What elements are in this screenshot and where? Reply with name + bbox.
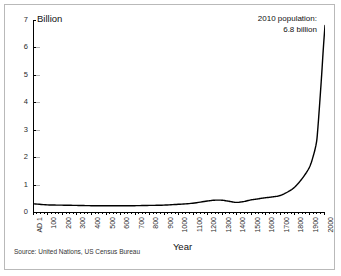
x-tick-mark-major: [222, 212, 223, 215]
x-tick-mark-major: [294, 212, 295, 215]
x-tick-mark-minor: [142, 212, 143, 214]
x-tick-mark-minor: [313, 212, 314, 214]
x-tick-mark-major: [280, 212, 281, 215]
x-tick-mark-minor: [66, 212, 67, 214]
x-tick-mark-minor: [185, 212, 186, 214]
x-tick-mark-minor: [244, 212, 245, 214]
population-growth-chart: Billion 2010 population: 6.8 billion 012…: [0, 0, 341, 276]
x-tick-mark-major: [62, 212, 63, 215]
x-tick-mark-minor: [138, 212, 139, 214]
x-tick-mark-minor: [109, 212, 110, 214]
x-tick-mark-minor: [291, 212, 292, 214]
y-tick-label: 2: [6, 153, 28, 161]
x-tick-mark-minor: [204, 212, 205, 214]
x-tick-mark-minor: [73, 212, 74, 214]
x-tick-mark-minor: [258, 212, 259, 214]
source-note: Source: United Nations, US Census Bureau: [14, 248, 140, 256]
x-tick-mark-major: [76, 212, 77, 215]
x-tick-mark-minor: [131, 212, 132, 214]
x-tick-mark-minor: [302, 212, 303, 214]
x-tick-mark-minor: [255, 212, 256, 214]
x-tick-mark-minor: [116, 212, 117, 214]
x-tick-label: 100: [50, 217, 57, 229]
x-tick-mark-minor: [229, 212, 230, 214]
x-tick-mark-minor: [269, 212, 270, 214]
x-tick-mark-major: [135, 212, 136, 215]
x-tick-mark-minor: [218, 212, 219, 214]
x-tick-mark-minor: [182, 212, 183, 214]
y-tick-label: 7: [6, 16, 28, 24]
x-tick-mark-major: [324, 212, 325, 215]
x-tick-mark-minor: [69, 212, 70, 214]
y-tick-label: 0: [6, 208, 28, 216]
x-tick-mark-minor: [305, 212, 306, 214]
x-tick-mark-minor: [215, 212, 216, 214]
x-tick-mark-minor: [247, 212, 248, 214]
x-tick-mark-minor: [189, 212, 190, 214]
population-line-series: [33, 20, 325, 212]
x-tick-mark-minor: [262, 212, 263, 214]
x-tick-mark-minor: [87, 212, 88, 214]
x-tick-label: 1400: [239, 217, 246, 233]
x-tick-mark-minor: [171, 212, 172, 214]
y-tick-label: 4: [6, 98, 28, 106]
x-tick-mark-minor: [175, 212, 176, 214]
x-tick-label: 700: [138, 217, 145, 229]
x-tick-mark-minor: [51, 212, 52, 214]
x-tick-mark-major: [164, 212, 165, 215]
x-tick-label: 1500: [254, 217, 261, 233]
x-tick-mark-minor: [287, 212, 288, 214]
x-tick-mark-minor: [127, 212, 128, 214]
x-tick-mark-minor: [95, 212, 96, 214]
x-tick-label: 900: [167, 217, 174, 229]
x-tick-mark-major: [149, 212, 150, 215]
x-tick-mark-minor: [196, 212, 197, 214]
x-tick-mark-major: [193, 212, 194, 215]
x-tick-mark-minor: [298, 212, 299, 214]
x-tick-label: 1000: [181, 217, 188, 233]
x-tick-mark-minor: [167, 212, 168, 214]
x-tick-mark-major: [91, 212, 92, 215]
x-tick-mark-major: [265, 212, 266, 215]
x-tick-mark-major: [207, 212, 208, 215]
x-tick-mark-minor: [320, 212, 321, 214]
x-tick-label: 1200: [210, 217, 217, 233]
x-tick-label: 200: [65, 217, 72, 229]
x-tick-mark-major: [236, 212, 237, 215]
x-tick-mark-minor: [40, 212, 41, 214]
plot-area: [33, 20, 325, 212]
x-tick-mark-minor: [84, 212, 85, 214]
x-tick-label: 1600: [268, 217, 275, 233]
x-tick-mark-minor: [113, 212, 114, 214]
x-tick-mark-major: [251, 212, 252, 215]
x-tick-label: 1800: [297, 217, 304, 233]
x-tick-mark-minor: [225, 212, 226, 214]
x-tick-mark-minor: [211, 212, 212, 214]
x-tick-label: 300: [79, 217, 86, 229]
x-tick-label: 800: [152, 217, 159, 229]
world-population-polyline: [33, 25, 325, 205]
x-tick-label: 400: [94, 217, 101, 229]
x-tick-mark-minor: [316, 212, 317, 214]
y-tick-label: 1: [6, 181, 28, 189]
x-tick-mark-minor: [98, 212, 99, 214]
x-tick-label: 500: [109, 217, 116, 229]
x-tick-label: 1700: [283, 217, 290, 233]
y-tick-label: 5: [6, 71, 28, 79]
x-tick-mark-minor: [156, 212, 157, 214]
x-tick-mark-minor: [44, 212, 45, 214]
x-tick-mark-minor: [80, 212, 81, 214]
x-tick-mark-major: [33, 212, 34, 215]
x-tick-mark-minor: [145, 212, 146, 214]
x-tick-mark-minor: [276, 212, 277, 214]
x-tick-mark-major: [309, 212, 310, 215]
x-tick-mark-minor: [240, 212, 241, 214]
x-tick-mark-minor: [284, 212, 285, 214]
x-tick-mark-minor: [55, 212, 56, 214]
x-tick-label: 1300: [225, 217, 232, 233]
x-tick-label: 1900: [312, 217, 319, 233]
y-tick-label: 6: [6, 43, 28, 51]
y-tick-label: 3: [6, 126, 28, 134]
x-tick-mark-major: [47, 212, 48, 215]
x-tick-mark-minor: [233, 212, 234, 214]
